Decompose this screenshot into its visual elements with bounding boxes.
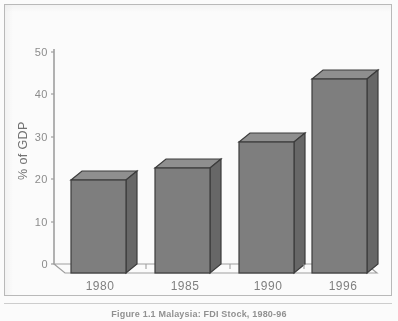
figure-container: 50 40 30 20 10 0 % of GDP — [0, 0, 398, 321]
bar-1990-front — [239, 142, 294, 273]
chart-frame: 50 40 30 20 10 0 % of GDP — [4, 4, 392, 296]
bar-1990-side — [294, 133, 305, 273]
y-tick-label-10: 10 — [35, 216, 48, 228]
bar-1980-front — [71, 180, 126, 273]
x-label-1990: 1990 — [254, 279, 283, 293]
bar-1985 — [155, 159, 221, 273]
bar-1980-side — [126, 171, 137, 273]
figure-caption: Figure 1.1 Malaysia: FDI Stock, 1980-96 — [0, 309, 398, 321]
chart-plot-area: 50 40 30 20 10 0 % of GDP — [5, 5, 393, 297]
y-tick-label-40: 40 — [35, 88, 48, 100]
y-tick-label-20: 20 — [35, 173, 48, 185]
bar-1996-front — [312, 79, 367, 273]
bar-1985-side — [210, 159, 221, 273]
y-tick-label-50: 50 — [35, 46, 48, 58]
bar-1996-side — [367, 70, 378, 273]
bar-1990 — [239, 133, 305, 273]
bar-1996 — [312, 70, 378, 273]
y-axis-title: % of GDP — [16, 121, 30, 180]
x-label-1985: 1985 — [171, 279, 200, 293]
y-tick-label-0: 0 — [41, 258, 48, 270]
x-label-1980: 1980 — [86, 279, 115, 293]
caption-divider — [4, 303, 392, 304]
y-tick-label-30: 30 — [35, 131, 48, 143]
bar-1980 — [71, 171, 137, 273]
bar-chart-3d: 50 40 30 20 10 0 % of GDP — [5, 5, 393, 297]
x-label-1996: 1996 — [329, 279, 358, 293]
bar-1985-front — [155, 168, 210, 273]
